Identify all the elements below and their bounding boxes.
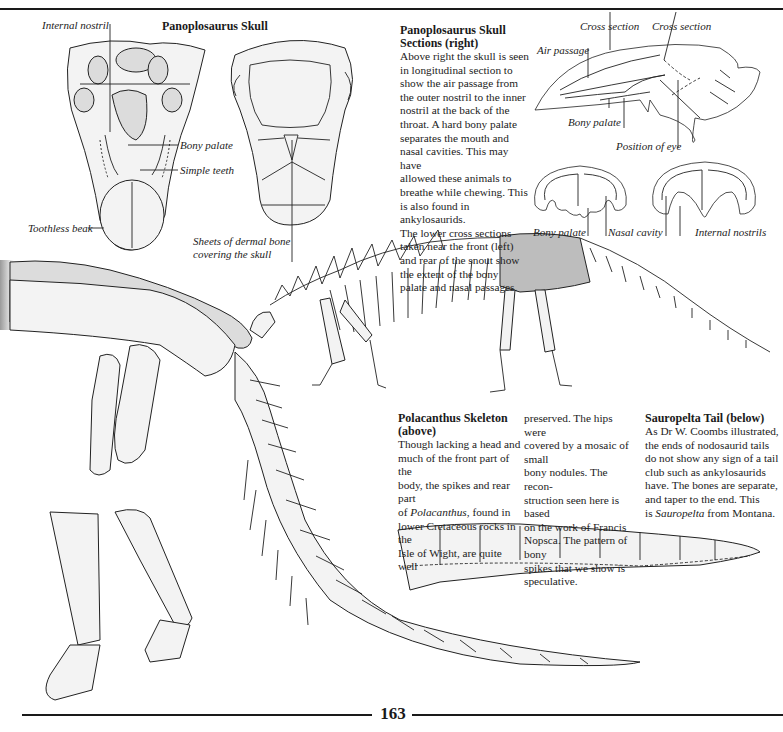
- illustrations: [0, 0, 783, 732]
- label-cross-section-2: Cross section: [652, 20, 711, 32]
- text-line: nasal cavities. This may have: [400, 145, 530, 172]
- text-line: have. The bones are separate,: [645, 479, 783, 493]
- text-line: is Sauropelta from Montana.: [645, 507, 783, 521]
- text-line: preserved. The hips were: [524, 412, 634, 439]
- cross-section-front: [535, 166, 627, 218]
- skull-sections-heading-line2: Sections (right): [400, 37, 506, 50]
- polacanthus-heading: Polacanthus Skeleton (above): [398, 412, 508, 438]
- text-line: the outer nostril to the inner: [400, 91, 530, 105]
- text-line: Though lacking a head and: [398, 438, 522, 452]
- text-line: spikes that we show is: [524, 562, 634, 576]
- label-air-passage: Air passage: [537, 44, 589, 56]
- text-line: separates the mouth and: [400, 132, 530, 146]
- text-line: much of the front part of the: [398, 452, 522, 479]
- label-internal-nostrils: Internal nostrils: [695, 226, 766, 238]
- text-line: breathe while chewing. This: [400, 186, 530, 200]
- bottom-rule-left: [22, 714, 372, 716]
- text-line: speculative.: [524, 575, 634, 589]
- text-line: struction seen here is based: [524, 494, 634, 521]
- sauropelta-heading: Sauropelta Tail (below): [645, 412, 764, 425]
- skull-sections-heading: Panoplosaurus Skull Sections (right): [400, 24, 506, 50]
- polacanthus-body-col2: preserved. The hips were covered by a mo…: [524, 412, 634, 589]
- label-internal-nostril: Internal nostril: [42, 19, 109, 31]
- text-line: Nopsca. The pattern of bony: [524, 534, 634, 561]
- text-line: bony nodules. The recon-: [524, 466, 634, 493]
- text-line: the extent of the bony: [400, 268, 530, 282]
- text-line: show the air passage from: [400, 77, 530, 91]
- text-line: The lower cross sections: [400, 227, 530, 241]
- label-cross-section-1: Cross section: [580, 20, 639, 32]
- skull-figure-title: Panoplosaurus Skull: [162, 20, 268, 33]
- text-line: the ends of nodosaurid tails: [645, 439, 783, 453]
- label-toothless-beak: Toothless beak: [28, 222, 93, 234]
- text-line: allowed these animals to: [400, 172, 530, 186]
- sauropelta-body: As Dr W. Coombs illustrated, the ends of…: [645, 425, 783, 520]
- label-dermal-bone-1: Sheets of dermal bone: [193, 235, 290, 247]
- bottom-rule-right: [412, 714, 783, 716]
- text-line: club such as ankylosaurids: [645, 466, 783, 480]
- text-line: taken near the front (left): [400, 240, 530, 254]
- text-line: and rear of the snout show: [400, 254, 530, 268]
- text-line: Above right the skull is seen: [400, 50, 530, 64]
- label-bony-palate-cross: Bony palate: [533, 226, 586, 238]
- text-line: As Dr W. Coombs illustrated,: [645, 425, 783, 439]
- skull-sections-body: Above right the skull is seen in longitu…: [400, 50, 530, 295]
- text-line: in longitudinal section to: [400, 64, 530, 78]
- label-bony-palate-section: Bony palate: [568, 116, 621, 128]
- polacanthus-heading-line2: (above): [398, 425, 508, 438]
- cross-section-rear: [653, 162, 756, 217]
- text-line: and taper to the end. This: [645, 493, 783, 507]
- polacanthus-body-col1: Though lacking a head and much of the fr…: [398, 438, 522, 574]
- text-line: Isle of Wight, are quite well: [398, 547, 522, 574]
- text-line: covered by a mosaic of small: [524, 439, 634, 466]
- page-number: 163: [375, 704, 411, 724]
- text-line: of Polacanthus, found in: [398, 506, 522, 520]
- label-bony-palate: Bony palate: [180, 139, 233, 151]
- label-dermal-bone-2: covering the skull: [193, 248, 271, 260]
- text-line: body, the spikes and rear part: [398, 479, 522, 506]
- text-line: palate and nasal passages.: [400, 281, 530, 295]
- text-line: do not show any sign of a tail: [645, 452, 783, 466]
- label-nasal-cavity: Nasal cavity: [608, 226, 663, 238]
- text-line: lower Cretaceous rocks in the: [398, 520, 522, 547]
- label-simple-teeth: Simple teeth: [180, 164, 234, 176]
- text-line: throat. A hard bony palate: [400, 118, 530, 132]
- text-line: nostril at the back of the: [400, 104, 530, 118]
- text-line: is also found in ankylosaurids.: [400, 200, 530, 227]
- label-position-of-eye: Position of eye: [616, 140, 681, 152]
- text-line: on the work of Francis: [524, 521, 634, 535]
